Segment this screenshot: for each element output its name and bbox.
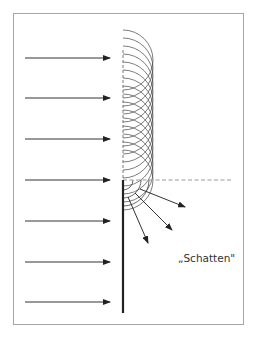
diffracted-arrow: [135, 193, 172, 230]
edge-arc: [123, 180, 141, 198]
diffracted-wave-arrows: [128, 189, 185, 243]
diffraction-diagram: [0, 0, 258, 338]
diffracted-arrow: [128, 197, 148, 243]
incident-wave-arrows: [25, 58, 110, 302]
shadow-label: „Schatten": [178, 252, 235, 264]
edge-arc: [123, 180, 133, 190]
